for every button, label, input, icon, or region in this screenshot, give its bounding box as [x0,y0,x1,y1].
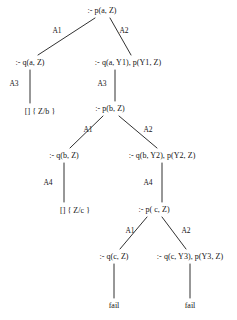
tree-node: :- q(b, Z) [49,151,79,160]
tree-node: :- p( c, Z) [138,205,169,214]
tree-node: :- q(a, Z) [15,58,44,67]
tree-node: :- p(a, Z) [87,6,116,15]
edge-label: A3 [9,80,18,88]
edge-label: A2 [119,27,128,35]
tree-leaf-fail: fail [185,301,196,310]
tree-edge [38,18,95,55]
tree-node: [] { Z/c } [60,206,90,215]
tree-node: :- q(a, Y1), p(Y1, Z) [95,58,161,67]
edge-label: A2 [143,126,152,134]
tree-edges-canvas [0,0,237,320]
edge-label: A4 [43,179,52,187]
edge-label: A3 [97,80,106,88]
tree-leaf-fail: fail [109,301,120,310]
edge-label: A4 [143,179,152,187]
edge-label: A1 [52,27,61,35]
edge-label: A1 [83,126,92,134]
tree-edge [110,18,131,55]
tree-node: [] { Z/b } [25,107,56,116]
tree-node: :- q(c, Z) [99,252,128,261]
edge-label: A1 [125,227,134,235]
edge-label: A2 [181,227,190,235]
tree-node: :- q(b, Y2), p(Y2, Z) [129,151,196,160]
tree-node: :- p(b, Z) [95,104,125,113]
tree-node: :- q(c, Y3), p(Y3, Z) [157,252,223,261]
